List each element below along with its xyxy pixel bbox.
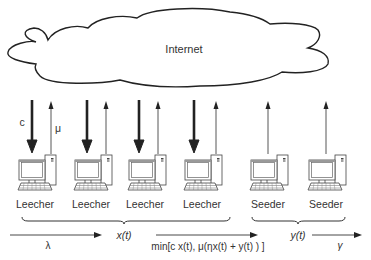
computer-icons xyxy=(18,155,346,190)
departure-rate-label: γ xyxy=(338,240,343,251)
upload-arrows xyxy=(49,101,329,154)
flow-arrows xyxy=(10,232,362,238)
completion-rate-label: min[c x(t), μ(ηx(t) + y(t) ) ] xyxy=(151,241,264,252)
peer-label-leecher: Leecher xyxy=(16,198,54,210)
peer-label-seeder: Seeder xyxy=(251,198,285,210)
leecher-brace xyxy=(22,217,230,224)
leecher-count-label: x(t) xyxy=(116,229,131,241)
peer-label-leecher: Leecher xyxy=(126,198,164,210)
internet-label: Internet xyxy=(165,43,202,55)
peer-label-leecher: Leecher xyxy=(72,198,110,210)
arrival-rate-label: λ xyxy=(46,240,51,251)
seeder-count-label: y(t) xyxy=(290,229,305,241)
peer-label-seeder: Seeder xyxy=(309,198,343,210)
download-rate-label: c xyxy=(19,116,24,128)
bittorrent-fluid-model-diagram: Internet c μ Leecher Leecher Leecher Lee… xyxy=(0,0,371,260)
peer-label-leecher: Leecher xyxy=(183,198,221,210)
upload-rate-label: μ xyxy=(55,122,61,134)
seeder-brace xyxy=(252,217,345,224)
